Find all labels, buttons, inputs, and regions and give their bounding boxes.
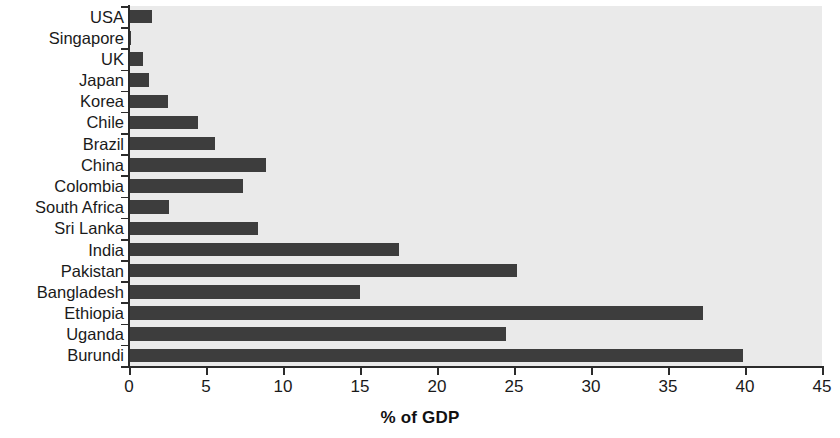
bar-row bbox=[0, 70, 840, 91]
x-axis-tick bbox=[514, 366, 516, 375]
bar-row bbox=[0, 48, 840, 69]
bar-row bbox=[0, 218, 840, 239]
bar-row bbox=[0, 112, 840, 133]
x-axis-tick-label: 35 bbox=[659, 377, 678, 397]
bar bbox=[129, 10, 152, 24]
bar bbox=[129, 116, 198, 130]
x-axis-tick bbox=[668, 366, 670, 375]
bar-row bbox=[0, 91, 840, 112]
x-axis-tick bbox=[437, 366, 439, 375]
x-axis-tick bbox=[822, 366, 824, 375]
bar-row bbox=[0, 345, 840, 366]
x-axis-tick-label: 15 bbox=[351, 377, 370, 397]
x-axis-tick bbox=[745, 366, 747, 375]
x-axis-tick-label: 45 bbox=[813, 377, 832, 397]
bar bbox=[129, 200, 169, 214]
bar-row bbox=[0, 239, 840, 260]
x-axis-tick-label: 5 bbox=[201, 377, 210, 397]
x-axis-tick bbox=[206, 366, 208, 375]
bar bbox=[129, 243, 399, 257]
bar-row bbox=[0, 197, 840, 218]
bar bbox=[129, 306, 703, 320]
bar-row bbox=[0, 302, 840, 323]
bar bbox=[129, 137, 215, 151]
x-axis-tick-label: 0 bbox=[124, 377, 133, 397]
bar-row bbox=[0, 27, 840, 48]
bar-row bbox=[0, 324, 840, 345]
bar-row bbox=[0, 133, 840, 154]
bar-row bbox=[0, 154, 840, 175]
bar bbox=[129, 222, 258, 236]
x-axis-title: % of GDP bbox=[0, 408, 840, 428]
bar bbox=[129, 73, 149, 87]
bar bbox=[129, 158, 266, 172]
x-axis-tick-label: 20 bbox=[428, 377, 447, 397]
bar bbox=[129, 264, 517, 278]
x-axis-tick-label: 40 bbox=[736, 377, 755, 397]
x-axis-tick bbox=[360, 366, 362, 375]
x-axis-tick bbox=[129, 366, 131, 375]
x-axis-tick-label: 25 bbox=[505, 377, 524, 397]
x-axis-tick bbox=[283, 366, 285, 375]
x-axis-tick-label: 10 bbox=[274, 377, 293, 397]
bar bbox=[129, 285, 360, 299]
bar-row bbox=[0, 175, 840, 196]
bar bbox=[129, 349, 743, 363]
bar bbox=[129, 179, 243, 193]
x-axis-tick bbox=[591, 366, 593, 375]
x-axis-tick-label: 30 bbox=[582, 377, 601, 397]
bar-row bbox=[0, 281, 840, 302]
bar bbox=[129, 95, 168, 109]
bar-row bbox=[0, 260, 840, 281]
bar bbox=[129, 52, 143, 66]
x-axis-line bbox=[129, 366, 823, 368]
y-axis-line bbox=[128, 5, 130, 367]
bar-chart-figure: USASingaporeUKJapanKoreaChileBrazilChina… bbox=[0, 0, 840, 438]
bar-row bbox=[0, 6, 840, 27]
bar bbox=[129, 327, 506, 341]
